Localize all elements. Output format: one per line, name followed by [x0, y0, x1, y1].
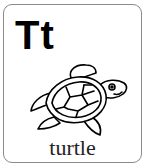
- word-label: turtle: [4, 135, 141, 161]
- flashcard: Tt turtle: [3, 4, 142, 163]
- letter-heading: Tt: [15, 15, 55, 55]
- turtle-icon: [26, 61, 134, 137]
